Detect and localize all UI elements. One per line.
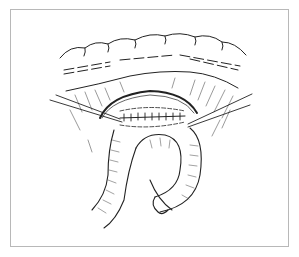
small-bowel-loop [92,128,201,228]
stay-sutures [50,94,252,127]
colon [60,34,246,91]
bowel-hatching [98,138,198,213]
anastomosis [100,91,197,127]
surgical-illustration [0,0,299,257]
mesentery [70,78,233,152]
